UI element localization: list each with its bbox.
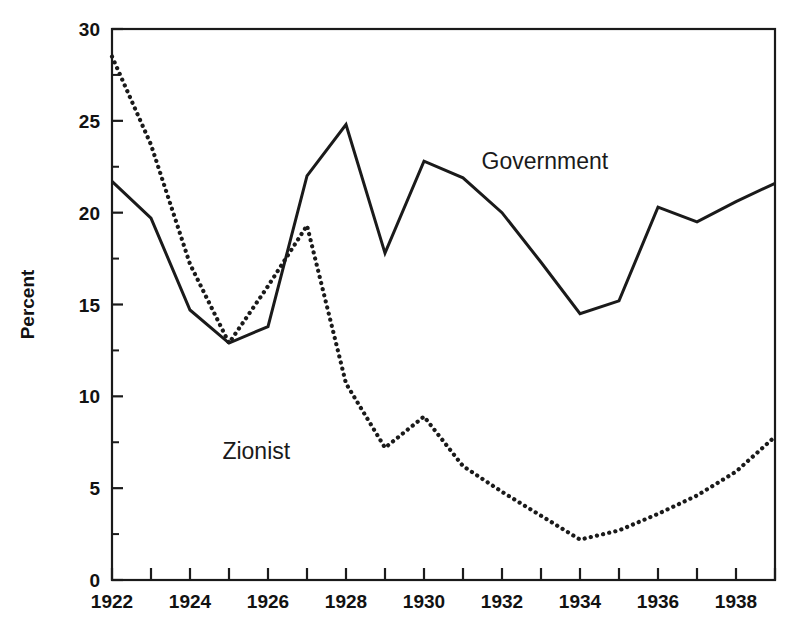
line-chart-svg: 051015202530 192219241926192819301932193… xyxy=(0,0,799,623)
series-line-government xyxy=(112,125,775,344)
y-tick-label: 15 xyxy=(79,295,101,316)
series-line-zionist xyxy=(112,57,775,540)
y-tick-label: 10 xyxy=(79,386,100,407)
x-tick-label: 1928 xyxy=(325,591,367,612)
chart-figure: 051015202530 192219241926192819301932193… xyxy=(0,0,799,623)
x-tick-label: 1936 xyxy=(637,591,679,612)
x-tick-label: 1924 xyxy=(169,591,212,612)
x-axis-tick-labels: 192219241926192819301932193419361938 xyxy=(91,591,757,612)
plot-frame xyxy=(112,29,775,580)
series-inline-labels: GovernmentZionist xyxy=(222,148,608,464)
x-tick-label: 1934 xyxy=(559,591,602,612)
y-tick-label: 5 xyxy=(89,478,100,499)
series-label-government: Government xyxy=(482,148,609,174)
x-tick-label: 1926 xyxy=(247,591,289,612)
y-axis-tick-labels: 051015202530 xyxy=(79,19,101,591)
x-tick-label: 1930 xyxy=(403,591,445,612)
y-tick-label: 20 xyxy=(79,203,100,224)
x-tick-label: 1922 xyxy=(91,591,133,612)
series-label-zionist: Zionist xyxy=(222,438,290,464)
y-tick-label: 30 xyxy=(79,19,100,40)
y-tick-label: 25 xyxy=(79,111,101,132)
x-axis-ticks xyxy=(112,568,775,580)
y-axis-ticks xyxy=(112,29,123,580)
data-series-group xyxy=(112,57,775,540)
y-tick-label: 0 xyxy=(89,570,100,591)
x-tick-label: 1938 xyxy=(715,591,757,612)
y-axis-title: Percent xyxy=(17,269,38,339)
x-tick-label: 1932 xyxy=(481,591,523,612)
